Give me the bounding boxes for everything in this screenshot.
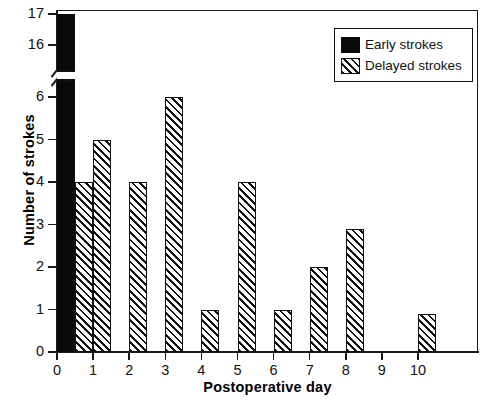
y-tick-3 [48,224,57,226]
x-tick-label-8: 8 [331,362,361,378]
bar-delayed-day-0 [75,182,93,352]
y-tick-label-17: 17 [0,6,44,20]
x-tick-label-2: 2 [114,362,144,378]
bar-delayed-day-4 [201,310,219,353]
x-tick-10 [417,352,419,360]
x-tick-7 [309,352,311,360]
x-tick-label-7: 7 [295,362,325,378]
bar-break-cap-0-day-0 [57,70,75,72]
y-axis-title: Number of strokes [21,65,37,295]
bar-break-cap-1-day-0 [57,79,75,81]
x-tick-label-4: 4 [186,362,216,378]
x-tick-label-1: 1 [78,362,108,378]
y-tick-5 [48,139,57,141]
x-tick-label-0: 0 [42,362,72,378]
legend-entry-early: Early strokes [341,34,466,55]
x-tick-6 [273,352,275,360]
x-tick-label-5: 5 [223,362,253,378]
y-tick-label-0: 0 [0,344,44,358]
legend: Early strokes Delayed strokes [334,28,473,82]
bar-delayed-day-10 [418,314,436,352]
y-tick-label-16: 16 [0,37,44,51]
bar-delayed-day-1 [93,140,111,353]
bar-delayed-day-2 [129,182,147,352]
x-tick-label-6: 6 [259,362,289,378]
x-tick-label-9: 9 [367,362,397,378]
x-tick-label-3: 3 [150,362,180,378]
legend-label-early: Early strokes [365,37,443,52]
x-axis-line [56,351,479,353]
x-tick-5 [237,352,239,360]
x-tick-9 [381,352,383,360]
bar-early-day-0-upper [57,14,75,71]
y-tick-16 [48,44,57,46]
y-tick-17 [48,13,57,15]
bar-delayed-day-6 [274,310,292,353]
legend-label-delayed: Delayed strokes [365,58,462,73]
bar-delayed-day-8 [346,229,364,352]
chart-canvas: 01234561617 012345678910 Postoperative d… [0,0,487,400]
legend-entry-delayed: Delayed strokes [341,55,466,76]
y-tick-6 [48,96,57,98]
y-tick-4 [48,181,57,183]
x-tick-1 [92,352,94,360]
bar-delayed-day-3 [165,97,183,352]
bar-delayed-day-5 [238,182,256,352]
x-tick-4 [201,352,203,360]
y-tick-label-1: 1 [0,302,44,316]
x-tick-8 [345,352,347,360]
legend-swatch-hatched-icon [341,58,360,74]
x-tick-2 [128,352,130,360]
y-tick-1 [48,309,57,311]
x-tick-3 [165,352,167,360]
x-axis-title: Postoperative day [57,379,478,395]
x-tick-label-10: 10 [403,362,433,378]
legend-swatch-solid-icon [341,37,360,53]
bar-delayed-day-7 [310,267,328,352]
x-tick-0 [56,352,58,360]
bar-early-day-0-lower [57,80,75,352]
y-tick-2 [48,266,57,268]
